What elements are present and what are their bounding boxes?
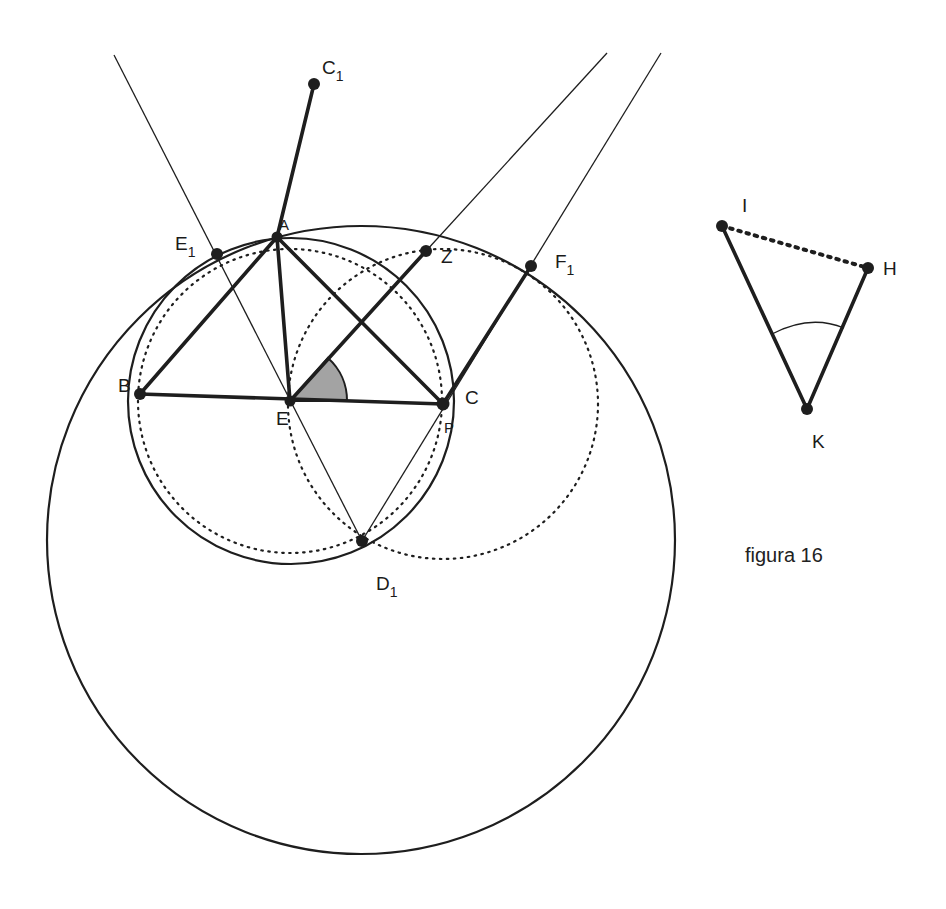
geometry-figure: A B C E P Z C1 E1 F1 D1 I H K figura 16 — [0, 0, 946, 909]
point-b — [134, 388, 146, 400]
point-e — [285, 396, 296, 407]
label-f1-sub: 1 — [567, 262, 575, 278]
point-k — [801, 403, 813, 415]
angle-arc-k — [772, 322, 844, 334]
segment-ez — [290, 251, 426, 401]
segment-ae — [277, 237, 290, 401]
segment-ih-dotted — [722, 226, 868, 268]
line-e-z-extended — [426, 53, 607, 251]
label-d1: D1 — [376, 573, 398, 600]
label-f1-main: F — [555, 251, 567, 272]
point-i — [716, 220, 728, 232]
label-d1-main: D — [376, 573, 390, 594]
point-c — [437, 398, 450, 411]
label-c: C — [465, 387, 479, 408]
segment-ik — [722, 226, 807, 409]
segment-a-c1 — [277, 84, 314, 237]
point-z — [420, 245, 432, 257]
label-e1-main: E — [175, 233, 188, 254]
point-e1 — [211, 248, 223, 260]
label-e1: E1 — [175, 233, 196, 260]
point-c1 — [308, 78, 320, 90]
label-c1-main: C — [322, 57, 336, 78]
label-e: E — [276, 408, 289, 429]
point-a — [272, 232, 283, 243]
point-f1 — [525, 260, 537, 272]
label-c1: C1 — [322, 57, 344, 84]
point-d1 — [356, 535, 368, 547]
segment-c-f1 — [443, 266, 531, 404]
label-d1-sub: 1 — [390, 584, 398, 600]
label-a: A — [279, 216, 289, 233]
label-z: Z — [441, 246, 453, 267]
label-i: I — [742, 195, 747, 216]
point-h — [862, 262, 874, 274]
label-e1-sub: 1 — [188, 244, 196, 260]
label-b: B — [118, 375, 131, 396]
line-e1-e-d1 — [114, 55, 362, 541]
label-f1: F1 — [555, 251, 575, 278]
label-k: K — [812, 431, 825, 452]
figure-caption: figura 16 — [745, 544, 823, 566]
segment-hk — [807, 268, 868, 409]
angle-sector-e — [290, 358, 347, 401]
label-h: H — [883, 258, 897, 279]
label-p: P — [444, 419, 454, 436]
label-c1-sub: 1 — [336, 68, 344, 84]
